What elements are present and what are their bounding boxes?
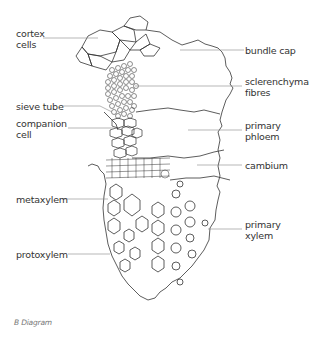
label-companion-cell: companion cell [16,118,67,140]
label-bundle-cap: bundle cap [245,45,296,56]
label-protoxylem: protoxylem [16,249,68,260]
label-primary-xylem: primary xylem [245,219,281,241]
label-primary-phloem: primary phloem [245,120,281,142]
label-metaxylem: metaxylem [16,194,68,205]
label-sclerenchyma-fibres: sclerenchyma fibres [245,76,309,98]
vascular-bundle-diagram: cortex cells bundle cap sclerenchyma fib… [0,0,318,337]
label-sieve-tube: sieve tube [16,101,64,112]
figure-caption: B Diagram [14,318,52,327]
label-cortex-cells: cortex cells [16,28,45,50]
label-cambium: cambium [245,160,288,171]
